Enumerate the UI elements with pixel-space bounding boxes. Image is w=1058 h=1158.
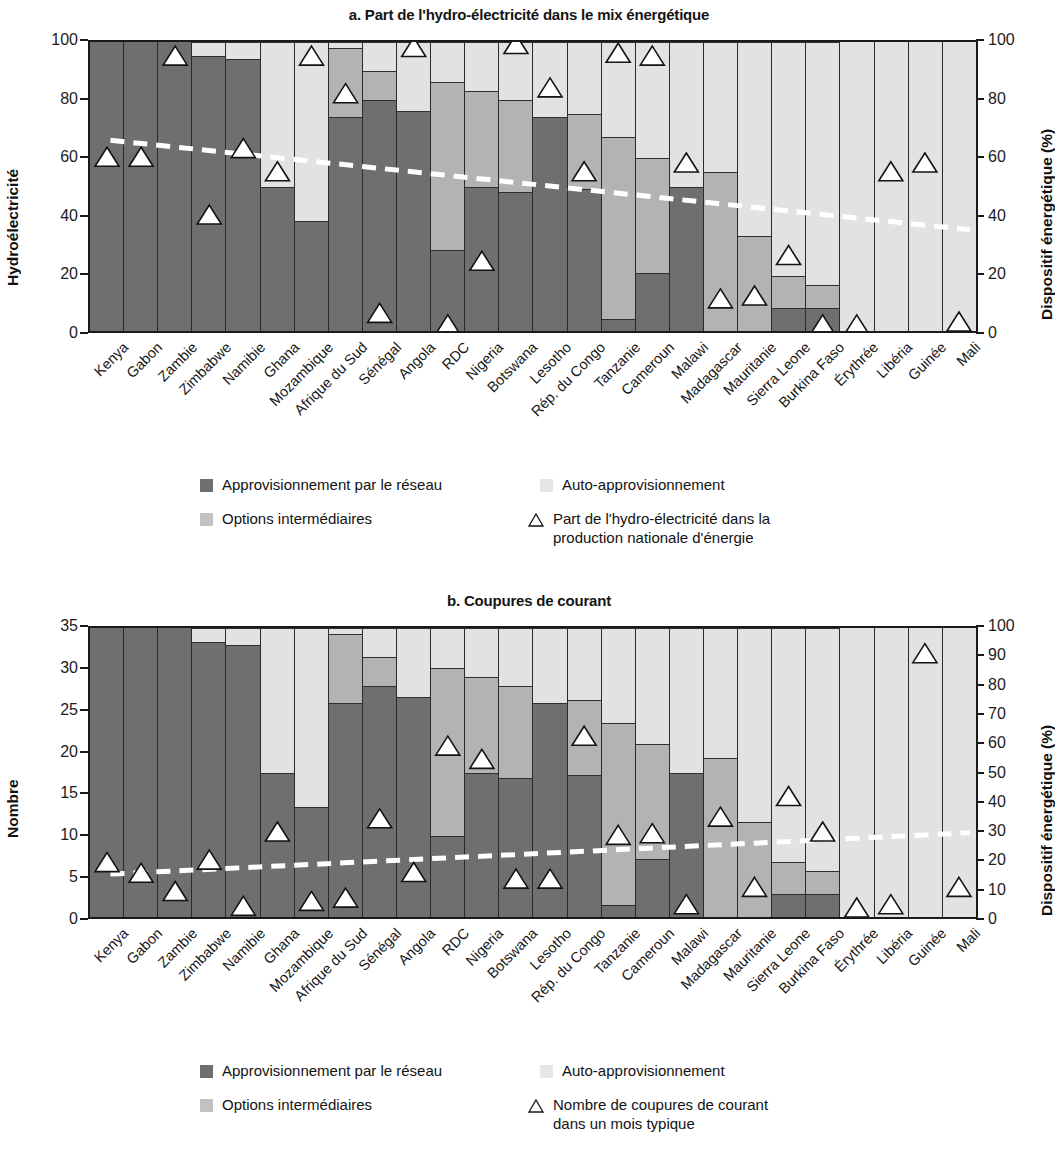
bar-madagascar bbox=[704, 628, 738, 917]
bar-r-p-du-congo bbox=[568, 42, 602, 331]
bar-segment bbox=[431, 628, 464, 668]
y-tick-mark bbox=[80, 625, 88, 627]
y-tick-mark bbox=[80, 332, 88, 334]
legend-label-intermediate: Options intermédiaires bbox=[222, 1096, 372, 1115]
bar-segment bbox=[772, 276, 805, 308]
bar-segment bbox=[499, 100, 532, 192]
bar-segment bbox=[806, 285, 839, 308]
bar-segment bbox=[636, 859, 669, 917]
bar-segment bbox=[329, 42, 362, 48]
bar-segment bbox=[875, 42, 908, 331]
bar-kenya bbox=[90, 42, 124, 331]
bar-segment bbox=[602, 905, 635, 917]
bar-segment bbox=[295, 628, 328, 807]
bar-segment bbox=[363, 100, 396, 331]
bar-segment bbox=[670, 628, 703, 773]
bar-segment bbox=[670, 42, 703, 187]
legend-label-self-supply: Auto-approvisionnement bbox=[562, 476, 725, 495]
bar-mauritanie bbox=[738, 628, 772, 917]
bar-nigeria bbox=[465, 628, 499, 917]
y-tick-mark bbox=[80, 215, 88, 217]
bar-namibie bbox=[226, 628, 260, 917]
bar-guin-e bbox=[909, 628, 943, 917]
bar-burkina-faso bbox=[806, 628, 840, 917]
legend-swatch-self-supply-icon bbox=[540, 1065, 553, 1078]
bar-segment bbox=[261, 187, 294, 332]
bar-segment bbox=[295, 221, 328, 331]
bar-segment bbox=[568, 42, 601, 114]
panel-b-left-axis-title: Nombre bbox=[4, 698, 22, 838]
bar-segment bbox=[192, 642, 225, 917]
bar-burkina-faso bbox=[806, 42, 840, 331]
y-tick-label: 0 bbox=[988, 910, 1038, 928]
bar-segment bbox=[261, 773, 294, 918]
legend-label-marker-line1: Part de l'hydro-électricité dans la bbox=[553, 510, 770, 527]
bar-segment bbox=[90, 42, 123, 331]
bar-segment bbox=[806, 894, 839, 917]
y-tick-label: 20 bbox=[988, 265, 1038, 283]
bar-namibie bbox=[226, 42, 260, 331]
bar-zimbabwe bbox=[192, 42, 226, 331]
y-tick-label: 100 bbox=[988, 31, 1038, 49]
bar-segment bbox=[499, 686, 532, 778]
bar-segment bbox=[465, 187, 498, 332]
y-tick-label: 20 bbox=[988, 851, 1038, 869]
bar-gabon bbox=[124, 42, 158, 331]
bar-lib-ria bbox=[875, 42, 909, 331]
bar-angola bbox=[397, 628, 431, 917]
bar-segment bbox=[465, 91, 498, 186]
bar-segment bbox=[295, 807, 328, 917]
y-tick-label: 10 bbox=[34, 826, 78, 844]
bar-sierra-leone bbox=[772, 42, 806, 331]
y-tick-mark bbox=[80, 876, 88, 878]
y-tick-label: 30 bbox=[34, 659, 78, 677]
bar-r-p-du-congo bbox=[568, 628, 602, 917]
bar-segment bbox=[533, 117, 566, 331]
y-tick-label: 40 bbox=[34, 207, 78, 225]
bar-segment bbox=[568, 114, 601, 189]
bar-segment bbox=[363, 628, 396, 657]
bar-segment bbox=[499, 778, 532, 917]
y-tick-label: 80 bbox=[34, 90, 78, 108]
bar-guin-e bbox=[909, 42, 943, 331]
bar-segment bbox=[738, 628, 771, 822]
bar-angola bbox=[397, 42, 431, 331]
bar-segment bbox=[295, 42, 328, 221]
bar-segment bbox=[363, 71, 396, 100]
bar-segment bbox=[636, 158, 669, 274]
bar-segment bbox=[363, 686, 396, 917]
legend-label-marker-line2: production nationale d'énergie bbox=[553, 529, 754, 546]
bar-segment bbox=[533, 628, 566, 703]
bar-mauritanie bbox=[738, 42, 772, 331]
bar-segment bbox=[602, 723, 635, 905]
y-tick-label: 15 bbox=[34, 784, 78, 802]
bar-segment bbox=[158, 628, 191, 917]
bar-tanzanie bbox=[602, 628, 636, 917]
bar-mali bbox=[943, 42, 976, 331]
y-tick-mark bbox=[80, 667, 88, 669]
bar-afrique-du-sud bbox=[329, 42, 363, 331]
bar-segment bbox=[704, 758, 737, 917]
bar-segment bbox=[192, 628, 225, 642]
legend-swatch-intermediate-icon bbox=[200, 513, 213, 526]
bar-zambie bbox=[158, 628, 192, 917]
bar-segment bbox=[943, 628, 976, 917]
y-tick-label: 90 bbox=[988, 646, 1038, 664]
panel-b: b. Coupures de courant Nombre Dispositif… bbox=[0, 588, 1058, 1158]
bar-segment bbox=[397, 42, 430, 111]
bar-nigeria bbox=[465, 42, 499, 331]
bar-rdc bbox=[431, 628, 465, 917]
bar-segment bbox=[670, 773, 703, 918]
panel-a-plot-area bbox=[88, 40, 978, 333]
legend-triangle-marker-icon bbox=[528, 1099, 544, 1113]
legend-swatch-self-supply-icon bbox=[540, 479, 553, 492]
bar-tanzanie bbox=[602, 42, 636, 331]
bar-segment bbox=[533, 703, 566, 917]
y-tick-label: 20 bbox=[34, 265, 78, 283]
y-tick-label: 10 bbox=[988, 881, 1038, 899]
bar-segment bbox=[636, 744, 669, 860]
bar-segment bbox=[329, 628, 362, 634]
bar-gabon bbox=[124, 628, 158, 917]
y-tick-label: 60 bbox=[34, 148, 78, 166]
bar-segment bbox=[704, 628, 737, 758]
